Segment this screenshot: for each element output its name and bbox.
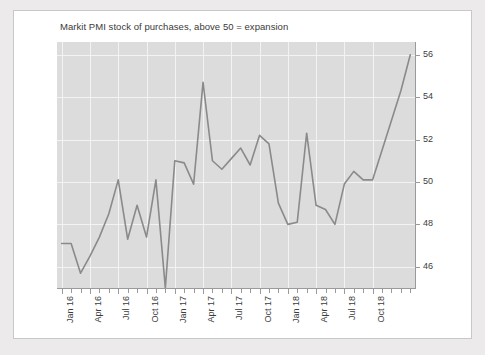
y-axis-tick	[416, 55, 420, 56]
y-axis-tick	[416, 97, 420, 98]
x-axis-tick	[71, 289, 72, 293]
chart-card: Markit PMI stock of purchases, above 50 …	[13, 10, 472, 339]
plot-area: 464850525456 Jan 16Apr 16Jul 16Oct 16Jan…	[14, 11, 473, 340]
x-axis-tick	[269, 289, 270, 293]
x-axis-tick	[165, 289, 166, 293]
x-axis-tick-label: Apr 18	[320, 296, 329, 323]
x-axis-tick	[382, 289, 383, 293]
y-axis-tick	[416, 224, 420, 225]
x-axis-tick-major	[62, 289, 63, 294]
x-axis-tick	[297, 289, 298, 293]
plot-panel	[57, 42, 415, 288]
y-axis-tick-label: 50	[423, 177, 433, 186]
y-axis-line	[415, 42, 416, 288]
x-axis-tick-major	[118, 289, 119, 294]
y-axis-tick	[416, 182, 420, 183]
x-axis-tick-major	[373, 289, 374, 294]
x-axis-tick	[410, 289, 411, 293]
series-path-markit-pmi	[62, 55, 411, 288]
y-axis-tick-label: 54	[423, 92, 433, 101]
x-axis-tick-label: Jul 17	[235, 296, 244, 320]
x-axis-tick	[184, 289, 185, 293]
x-axis-tick	[326, 289, 327, 293]
series-line-chart	[57, 42, 415, 288]
x-axis-tick-label: Apr 16	[94, 296, 103, 323]
x-axis-tick-label: Oct 18	[377, 296, 386, 323]
x-axis-tick	[241, 289, 242, 293]
x-axis-tick-major	[344, 289, 345, 294]
x-axis-tick-major	[203, 289, 204, 294]
y-axis-tick-label: 52	[423, 135, 433, 144]
y-axis-tick	[416, 140, 420, 141]
x-axis-tick-label: Jul 16	[122, 296, 131, 320]
x-axis-tick	[81, 289, 82, 293]
x-axis-tick	[363, 289, 364, 293]
x-axis-tick-major	[147, 289, 148, 294]
x-axis-tick	[354, 289, 355, 293]
x-axis-tick-label: Jan 18	[292, 296, 301, 323]
x-axis-tick-major	[316, 289, 317, 294]
x-axis-tick-major	[90, 289, 91, 294]
x-axis-tick	[250, 289, 251, 293]
x-axis-tick-major	[260, 289, 261, 294]
x-axis-tick-major	[288, 289, 289, 294]
x-axis-tick-label: Oct 16	[151, 296, 160, 323]
x-axis-tick-label: Oct 17	[264, 296, 273, 323]
x-axis-tick-major	[175, 289, 176, 294]
x-axis-tick	[212, 289, 213, 293]
x-axis-tick	[307, 289, 308, 293]
x-axis-tick-label: Apr 17	[207, 296, 216, 323]
y-axis-tick-label: 56	[423, 50, 433, 59]
x-axis-tick	[99, 289, 100, 293]
x-axis-tick	[137, 289, 138, 293]
x-axis-tick	[401, 289, 402, 293]
y-axis-tick-label: 46	[423, 262, 433, 271]
x-axis-tick	[128, 289, 129, 293]
y-axis-tick	[416, 267, 420, 268]
x-axis-tick	[278, 289, 279, 293]
y-axis-tick-label: 48	[423, 219, 433, 228]
x-axis-tick	[335, 289, 336, 293]
x-axis-tick	[156, 289, 157, 293]
x-axis-tick-label: Jan 17	[179, 296, 188, 323]
x-axis-tick	[194, 289, 195, 293]
x-axis-line	[57, 288, 416, 289]
x-axis-tick	[391, 289, 392, 293]
x-axis-tick-label: Jul 18	[348, 296, 357, 320]
x-axis-tick-label: Jan 16	[66, 296, 75, 323]
x-axis-tick-major	[231, 289, 232, 294]
x-axis-tick	[222, 289, 223, 293]
x-axis-tick	[109, 289, 110, 293]
